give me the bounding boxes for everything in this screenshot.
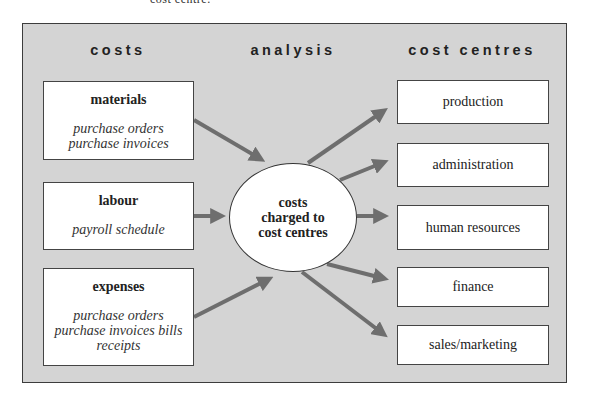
arrow-hub-to-sales-marketing <box>302 272 382 333</box>
cost-source-line: purchase orders <box>44 308 193 323</box>
cost-centre-label: administration <box>433 157 514 173</box>
cost-centre-label: production <box>443 94 504 110</box>
hub-line: cost centres <box>258 225 327 240</box>
analysis-hub: costs charged to cost centres <box>229 163 357 272</box>
cost-source-line: purchase invoices <box>44 136 193 151</box>
cost-source-line: purchase orders <box>44 121 193 136</box>
hub-line: costs <box>258 195 327 210</box>
cost-source-title: materials <box>44 92 193 108</box>
cost-centre-production: production <box>397 80 549 124</box>
cost-centre-label: sales/marketing <box>429 337 517 353</box>
cost-source-title: labour <box>44 193 193 209</box>
arrow-expenses-to-hub <box>194 280 267 317</box>
hub-line: charged to <box>258 210 327 225</box>
cost-centre-finance: finance <box>397 267 549 307</box>
cost-source-materials: materials purchase orders purchase invoi… <box>43 81 194 160</box>
cost-centre-label: human resources <box>426 220 520 236</box>
cost-source-line: payroll schedule <box>44 222 193 237</box>
cost-centre-administration: administration <box>397 143 549 187</box>
cost-source-line: purchase invoices bills <box>44 323 193 338</box>
cost-source-title: expenses <box>44 279 193 295</box>
arrow-hub-to-production <box>308 112 382 163</box>
cost-source-labour: labour payroll schedule <box>43 182 194 250</box>
cost-source-line: receipts <box>44 338 193 353</box>
cost-centre-human-resources: human resources <box>397 205 549 250</box>
cost-centre-sales-marketing: sales/marketing <box>397 325 549 365</box>
arrow-hub-to-finance <box>327 264 382 278</box>
cost-source-expenses: expenses purchase orders purchase invoic… <box>43 268 194 366</box>
cost-centre-label: finance <box>452 279 493 295</box>
arrow-materials-to-hub <box>194 120 259 158</box>
arrow-hub-to-administration <box>340 163 382 180</box>
